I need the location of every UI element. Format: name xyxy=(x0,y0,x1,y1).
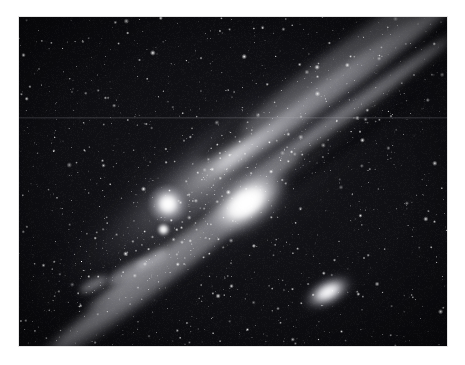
companion-galaxy-m32 xyxy=(148,185,188,223)
astronomy-photograph xyxy=(19,17,447,346)
scanline-artifact-secondary xyxy=(19,118,447,119)
page-canvas xyxy=(0,0,465,365)
foreground-star-bright xyxy=(157,223,170,236)
